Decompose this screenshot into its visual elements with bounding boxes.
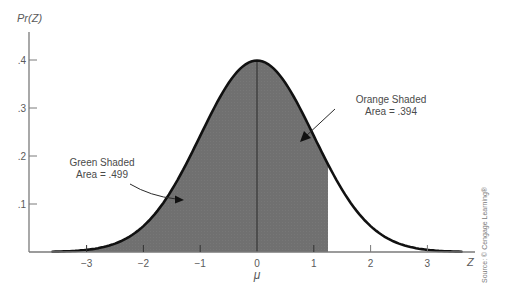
y-tick-label: .2: [18, 151, 27, 162]
y-tick-label: .3: [18, 103, 27, 114]
orange-annotation-line2: Area = .394: [365, 106, 417, 117]
x-tick-label: 3: [425, 258, 431, 269]
x-tick-label: −2: [138, 258, 150, 269]
normal-distribution-chart: −3−2−10123 .1.2.3.4 Pr(Z) Z μ Green Shad…: [0, 0, 507, 296]
x-axis-label: Z: [466, 256, 475, 268]
y-axis-label: Pr(Z): [17, 12, 42, 24]
y-tick-label: .4: [18, 55, 27, 66]
x-tick-label: −3: [81, 258, 93, 269]
y-ticks: .1.2.3.4: [18, 55, 37, 210]
x-tick-label: 2: [368, 258, 374, 269]
green-annotation-line1: Green Shaded: [69, 157, 134, 168]
x-tick-label: −1: [194, 258, 206, 269]
y-tick-label: .1: [18, 199, 27, 210]
orange-annotation-arrow: [306, 109, 335, 136]
mu-label: μ: [253, 268, 261, 282]
source-credit: Source: © Cengage Learning®: [481, 186, 489, 283]
x-tick-label: 1: [311, 258, 317, 269]
orange-annotation-line1: Orange Shaded: [356, 94, 427, 105]
green-annotation-line2: Area = .499: [76, 169, 128, 180]
